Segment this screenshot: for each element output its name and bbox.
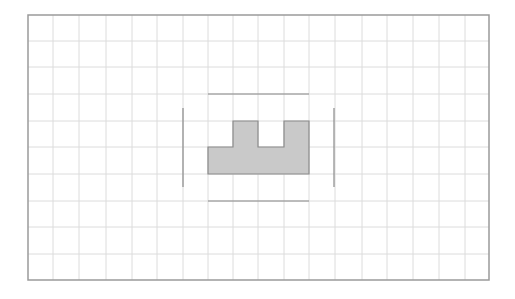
grid-diagram: [0, 0, 515, 299]
grid-diagram-canvas: [0, 0, 515, 299]
notched-shape: [208, 121, 309, 174]
